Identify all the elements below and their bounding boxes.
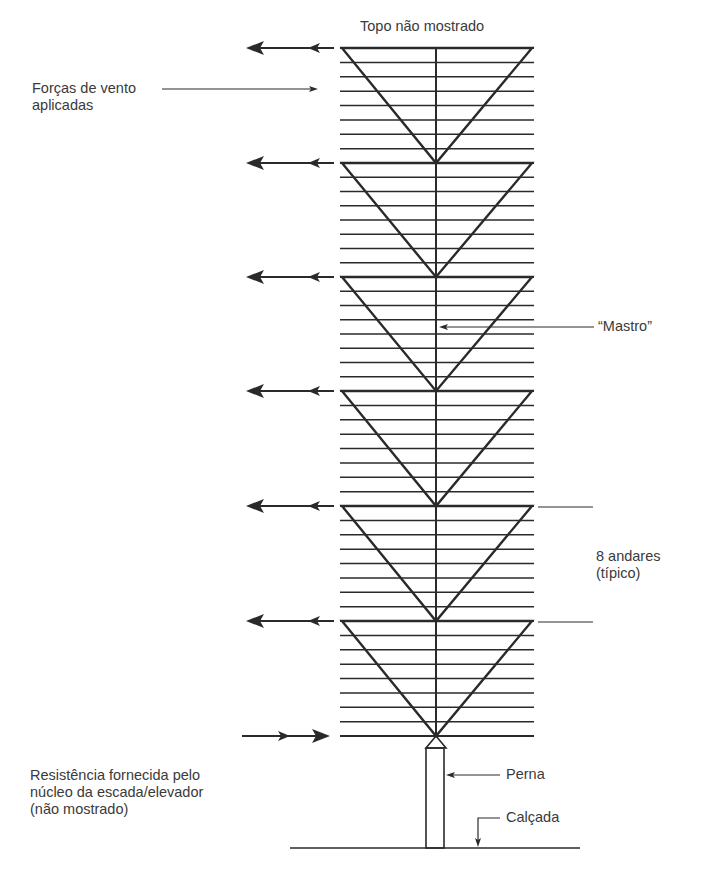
wind-arrow [246, 270, 334, 284]
floors-label: 8 andares (típico) [596, 548, 661, 582]
wind-arrow [246, 384, 334, 398]
wind-arrow [246, 614, 334, 628]
top-not-shown-label: Topo não mostrado [360, 18, 484, 35]
sidewalk-label-leader [475, 818, 500, 847]
leg-label: Perna [506, 766, 545, 783]
wind-arrow [246, 156, 334, 170]
wind-forces-label: Forças de vento aplicadas [32, 80, 136, 114]
sidewalk-label: Calçada [506, 809, 559, 826]
wind-label-leader [162, 86, 318, 92]
wind-force-arrows [246, 41, 334, 628]
mast-label: “Mastro” [598, 318, 652, 335]
braced-tower-diagram [0, 0, 702, 881]
mast-label-leader [439, 324, 594, 330]
leg [426, 736, 446, 848]
resistance-arrow [242, 729, 330, 743]
resistance-label: Resistência fornecida pelo núcleo da esc… [30, 767, 203, 818]
wind-arrow [246, 499, 334, 513]
wind-arrow [246, 41, 334, 55]
leg-label-leader [446, 772, 500, 778]
